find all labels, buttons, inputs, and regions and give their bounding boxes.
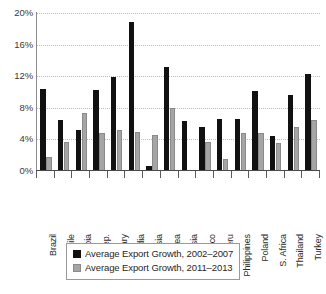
bar-series-0 bbox=[76, 130, 81, 171]
x-axis-tick bbox=[195, 171, 196, 178]
bar-group bbox=[164, 14, 175, 171]
bar-series-1 bbox=[205, 142, 210, 171]
legend-label-series-1: Average Export Growth, 2011–2013 bbox=[85, 263, 233, 273]
y-axis-tick-label: 16% bbox=[1, 40, 33, 50]
bar-series-1 bbox=[117, 130, 122, 171]
x-axis-label: Turkey bbox=[314, 234, 323, 292]
bar-series-0 bbox=[252, 91, 257, 171]
x-axis-label: Brazil bbox=[49, 234, 58, 292]
bar-series-0 bbox=[182, 121, 187, 171]
x-axis-tick bbox=[142, 171, 143, 178]
bar-group bbox=[252, 14, 263, 171]
x-axis-tick bbox=[107, 171, 108, 178]
bar-series-0 bbox=[235, 119, 240, 171]
bar-series-1 bbox=[82, 113, 87, 171]
bar-series-1 bbox=[258, 133, 263, 171]
bar-group bbox=[58, 14, 69, 171]
y-axis-tick-label: 8% bbox=[1, 103, 33, 113]
bar-group bbox=[129, 14, 140, 171]
bar-group bbox=[270, 14, 281, 171]
x-axis-tick bbox=[71, 171, 72, 178]
bar-series-0 bbox=[288, 95, 293, 171]
bar-group bbox=[199, 14, 210, 171]
bar-group bbox=[182, 14, 193, 171]
legend-swatch-series-1-icon bbox=[73, 264, 81, 272]
bar-series-1 bbox=[46, 157, 51, 171]
legend-swatch-series-0-icon bbox=[73, 250, 81, 258]
x-axis-label: Thailand bbox=[296, 234, 305, 292]
x-axis-label: Poland bbox=[261, 234, 270, 292]
bar-group bbox=[305, 14, 316, 171]
bar-series-1 bbox=[99, 133, 104, 171]
bar-group bbox=[40, 14, 51, 171]
legend-item: Average Export Growth, 2011–2013 bbox=[73, 261, 233, 275]
bar-series-0 bbox=[40, 89, 45, 171]
y-axis-tick-label: 12% bbox=[1, 71, 33, 81]
bar-series-0 bbox=[111, 77, 116, 171]
bar-group bbox=[288, 14, 299, 171]
y-axis-tick-labels: 0%4%8%12%16%20% bbox=[0, 13, 33, 171]
x-axis-tick bbox=[266, 171, 267, 178]
x-axis-label: S. Africa bbox=[279, 234, 288, 292]
y-axis-tick-label: 4% bbox=[1, 134, 33, 144]
x-axis-tick bbox=[231, 171, 232, 178]
bar-series-0 bbox=[270, 136, 275, 171]
bar-series-1 bbox=[170, 108, 175, 171]
x-axis-tick bbox=[178, 171, 179, 178]
x-axis-tick bbox=[89, 171, 90, 178]
bar-series-1 bbox=[241, 133, 246, 171]
bar-series-0 bbox=[58, 120, 63, 171]
x-axis-tick bbox=[160, 171, 161, 178]
legend-label-series-0: Average Export Growth, 2002–2007 bbox=[85, 249, 233, 259]
legend-item: Average Export Growth, 2002–2007 bbox=[73, 247, 233, 261]
bar-group bbox=[146, 14, 157, 171]
bar-series-0 bbox=[305, 74, 310, 171]
y-axis-tick-label: 0% bbox=[1, 166, 33, 176]
x-axis-tick bbox=[124, 171, 125, 178]
x-axis-tick bbox=[213, 171, 214, 178]
bar-series-0 bbox=[217, 119, 222, 171]
bar-series-1 bbox=[294, 127, 299, 171]
x-axis-tick bbox=[248, 171, 249, 178]
bar-group bbox=[93, 14, 104, 171]
x-axis-tick-marks bbox=[36, 171, 320, 178]
bar-group bbox=[217, 14, 228, 171]
x-axis-category-labels: BrazilChileColombiaCzech Rep.HungaryIndi… bbox=[36, 178, 320, 236]
bar-group bbox=[76, 14, 87, 171]
bar-series-0 bbox=[199, 127, 204, 171]
bar-series-0 bbox=[93, 90, 98, 171]
bar-chart: 0%4%8%12%16%20% BrazilChileColombiaCzech… bbox=[0, 0, 326, 294]
bar-group bbox=[111, 14, 122, 171]
y-axis-tick-label: 20% bbox=[1, 8, 33, 18]
bar-group bbox=[235, 14, 246, 171]
x-axis-tick bbox=[284, 171, 285, 178]
bar-series-1 bbox=[64, 142, 69, 171]
plot-area bbox=[37, 13, 320, 171]
x-axis-tick bbox=[301, 171, 302, 178]
x-axis-tick bbox=[319, 171, 320, 178]
bar-series-0 bbox=[129, 22, 134, 171]
x-axis-tick bbox=[54, 171, 55, 178]
chart-legend: Average Export Growth, 2002–2007 Average… bbox=[66, 243, 240, 280]
bar-series-0 bbox=[164, 67, 169, 171]
bar-series-1 bbox=[152, 135, 157, 171]
bar-series-1 bbox=[276, 143, 281, 171]
x-axis-tick bbox=[36, 171, 37, 178]
bar-series-1 bbox=[135, 132, 140, 172]
x-axis-label: Philippines bbox=[243, 234, 252, 292]
bar-series-1 bbox=[311, 120, 316, 171]
